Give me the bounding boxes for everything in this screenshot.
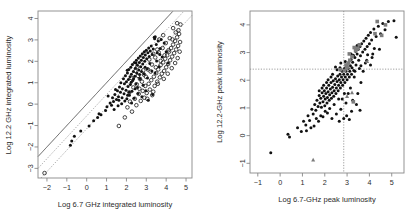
- data-point: [130, 73, 133, 76]
- data-point: [168, 58, 172, 62]
- data-point: [147, 82, 151, 86]
- data-point: [335, 113, 338, 116]
- x-tick-label: −1: [254, 178, 262, 187]
- data-point: [371, 56, 374, 59]
- data-point: [330, 117, 333, 120]
- data-point: [150, 44, 153, 47]
- data-point: [367, 34, 370, 37]
- data-point: [359, 109, 362, 112]
- data-point: [362, 39, 365, 42]
- data-point: [296, 126, 299, 129]
- data-point: [346, 61, 350, 65]
- data-point: [339, 86, 342, 89]
- data-point: [170, 66, 174, 70]
- data-point: [336, 68, 339, 71]
- data-point: [70, 139, 73, 142]
- data-point: [356, 52, 359, 55]
- y-tick-label: −1: [239, 159, 248, 167]
- data-point: [141, 89, 145, 93]
- data-point: [92, 119, 95, 122]
- data-point: [152, 47, 155, 50]
- panel-right-peak-luminosity: −1012345 −101234 Log 6.7-GHz peak lumino…: [209, 0, 418, 216]
- data-point: [319, 97, 322, 100]
- data-point: [315, 99, 318, 102]
- y-tick-label: 2: [239, 78, 248, 82]
- data-point: [323, 89, 326, 92]
- data-point: [353, 56, 356, 59]
- data-point: [321, 100, 324, 103]
- data-point: [79, 129, 82, 132]
- x-tick-label: 1: [105, 183, 109, 192]
- data-point: [353, 75, 356, 78]
- data-point: [124, 74, 127, 77]
- left-y-axis-label: Log 12.2 GHz integrated luminosity: [4, 35, 13, 154]
- data-point: [134, 62, 137, 65]
- data-point: [318, 101, 321, 104]
- data-point: [353, 70, 356, 73]
- data-point: [338, 78, 341, 81]
- data-point: [340, 75, 343, 78]
- right-y-axis-label: Log 12.2-GHz peak luminosity: [215, 41, 224, 143]
- y-tick-label: 2: [27, 59, 36, 63]
- left-scatter-plot: −2−1012345 −3−2−101234 Log 6.7 GHz integ…: [0, 0, 209, 216]
- right-data-points: [269, 19, 397, 161]
- x-tick-label: 5: [390, 178, 394, 187]
- data-point: [172, 51, 176, 55]
- data-point: [117, 124, 121, 128]
- data-point: [320, 106, 323, 109]
- data-point: [123, 99, 126, 102]
- data-point: [126, 106, 130, 110]
- data-point: [342, 117, 345, 120]
- data-point: [176, 44, 180, 48]
- data-point: [162, 69, 166, 73]
- data-point: [339, 81, 342, 84]
- data-point: [327, 90, 330, 93]
- x-tick-label: −2: [43, 183, 51, 192]
- data-point: [327, 78, 330, 81]
- data-point: [324, 110, 327, 113]
- y-tick-label: −2: [27, 143, 36, 151]
- data-point: [337, 89, 340, 92]
- y-tick-label: 3: [239, 51, 248, 55]
- data-point: [144, 53, 147, 56]
- data-point: [384, 23, 388, 27]
- data-point: [326, 96, 329, 99]
- data-point: [366, 53, 369, 56]
- data-point: [127, 85, 130, 88]
- data-point: [288, 136, 291, 139]
- data-point: [121, 96, 124, 99]
- data-point: [139, 65, 142, 68]
- data-point: [334, 92, 337, 95]
- data-point: [346, 65, 350, 69]
- data-point: [145, 49, 148, 52]
- data-point: [323, 104, 326, 107]
- data-point: [343, 81, 346, 84]
- right-x-axis-label: Log 6.7-GHz peak luminosity: [278, 195, 376, 204]
- data-point: [384, 28, 387, 31]
- data-point: [307, 114, 310, 117]
- data-point: [335, 86, 338, 89]
- data-point: [332, 95, 335, 98]
- data-point: [111, 96, 114, 99]
- data-point: [286, 133, 289, 136]
- x-tick-label: −1: [63, 183, 71, 192]
- data-point: [162, 77, 166, 81]
- data-point: [333, 89, 336, 92]
- data-point: [357, 59, 360, 62]
- data-point: [344, 60, 347, 63]
- y-tick-label: 4: [27, 16, 36, 20]
- data-point: [313, 124, 316, 127]
- data-point: [318, 94, 321, 97]
- y-tick-label: 4: [239, 23, 248, 27]
- data-point: [153, 56, 157, 60]
- data-point: [339, 68, 343, 72]
- y-tick-label: 0: [27, 102, 36, 106]
- data-point: [346, 78, 349, 81]
- data-point: [147, 58, 151, 62]
- data-point: [326, 101, 329, 104]
- data-point: [163, 57, 167, 61]
- data-point: [366, 45, 369, 48]
- x-tick-label: 2: [124, 183, 128, 192]
- data-point: [343, 69, 347, 73]
- data-point: [98, 112, 101, 115]
